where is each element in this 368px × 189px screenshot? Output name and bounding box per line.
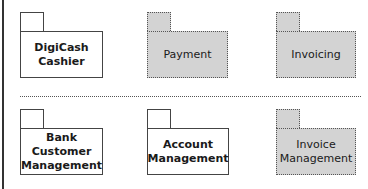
package-body: Payment: [147, 31, 228, 78]
package-body: Account Management: [147, 128, 229, 175]
package-tab: [147, 12, 171, 31]
package-tab: [276, 12, 300, 31]
package-label-line: Bank Customer: [21, 131, 102, 159]
package-label-line: DigiCash: [34, 41, 88, 55]
package-body: Bank Customer Management: [20, 128, 103, 175]
package-body: Invoicing: [276, 31, 356, 78]
package-body: DigiCash Cashier: [20, 31, 103, 78]
package-tab: [276, 109, 300, 128]
package-label-line: Invoice: [280, 138, 352, 152]
package-tab: [147, 109, 171, 128]
package-label-line: Account: [148, 138, 229, 152]
package-tab: [20, 12, 44, 31]
left-border-rule: [2, 0, 4, 189]
package-label-line: Invoicing: [291, 48, 341, 62]
layer-separator: [20, 96, 361, 97]
package-label-line: Payment: [163, 48, 211, 62]
package-label-line: Management: [148, 152, 229, 166]
package-tab: [20, 109, 44, 128]
package-label-line: Cashier: [34, 55, 88, 69]
package-label-line: Management: [280, 152, 352, 166]
package-label-line: Management: [21, 159, 102, 173]
package-body: Invoice Management: [276, 128, 356, 175]
